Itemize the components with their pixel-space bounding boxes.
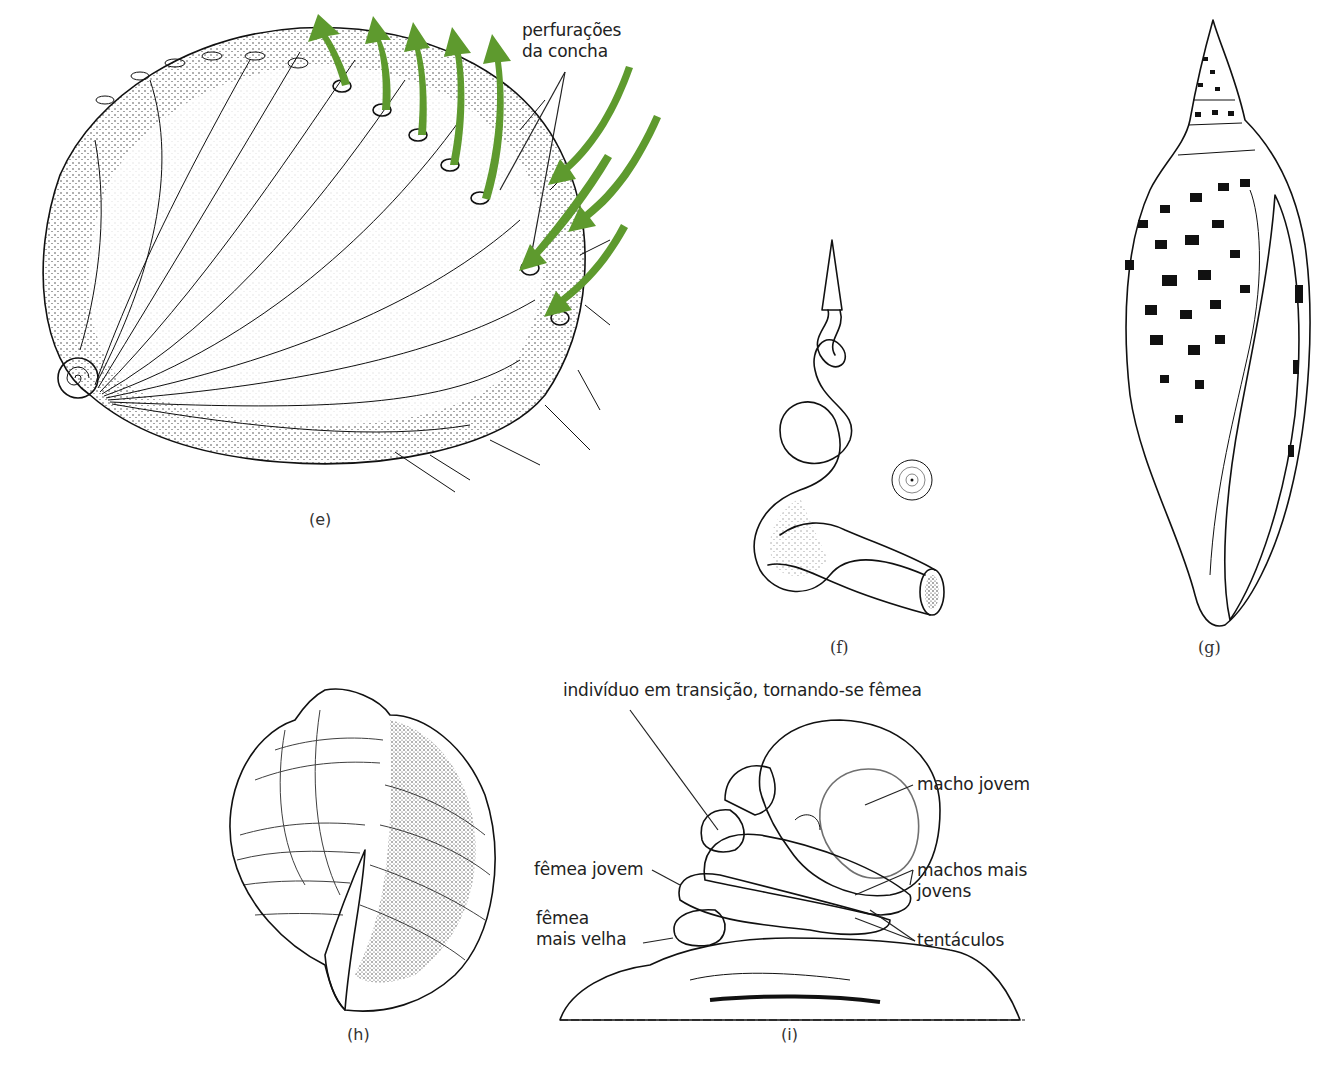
label-line-2: da concha [522, 41, 621, 62]
caption-e: (e) [309, 510, 331, 529]
worm-snail-illustration [740, 230, 960, 660]
caption-f: (f) [830, 638, 848, 657]
volute-shell-illustration [1100, 15, 1330, 665]
label-line-1: machos mais [917, 860, 1027, 881]
panel-i-limpet-stack: indivíduo em transição, tornando-se fême… [530, 680, 1070, 1055]
caption-i: (i) [781, 1025, 798, 1044]
caption-h: (h) [347, 1025, 370, 1044]
label-line-1: fêmea [536, 908, 626, 929]
label-tentacles: tentáculos [917, 930, 1004, 951]
label-young-male: macho jovem [917, 774, 1030, 795]
panel-g-volute: (g) [1100, 15, 1330, 665]
panel-e-abalone: perfurações da concha (e) [0, 0, 680, 540]
label-older-female: fêmea mais velha [536, 908, 626, 950]
abalone-shell-illustration [0, 0, 680, 540]
label-younger-males: machos mais jovens [917, 860, 1027, 902]
caption-g: (g) [1198, 638, 1221, 657]
limpet-stack-illustration [530, 680, 1070, 1025]
tun-shell-illustration [215, 685, 515, 1025]
mollusc-figure: perfurações da concha (e) (f) [0, 0, 1339, 1071]
label-transitional-individual: indivíduo em transição, tornando-se fême… [563, 680, 922, 701]
label-line-2: mais velha [536, 929, 626, 950]
label-young-female: fêmea jovem [534, 859, 643, 880]
label-line-2: jovens [917, 881, 1027, 902]
label-line-1: perfurações [522, 20, 621, 41]
panel-f-worm-snail: (f) [740, 230, 960, 660]
panel-h-tun: (h) [215, 685, 515, 1055]
label-shell-perforations: perfurações da concha [522, 20, 621, 62]
